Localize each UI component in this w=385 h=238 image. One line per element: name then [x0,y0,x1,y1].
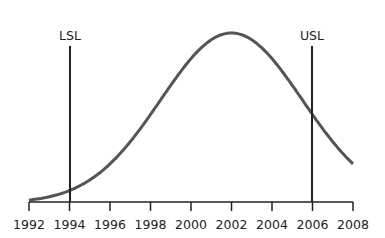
x-tick-label: 1992 [13,217,45,232]
x-tick-label: 1998 [135,217,167,232]
process-capability-chart: 199219941996199820002002200420062008 LSL… [0,0,385,238]
normal-distribution-curve [29,33,353,200]
x-tick-label: 2008 [337,217,369,232]
x-tick-label: 2000 [175,217,207,232]
x-tick-label: 2006 [297,217,329,232]
x-tick-label: 2004 [256,217,288,232]
x-axis-ticks [29,202,353,211]
x-tick-label: 1996 [94,217,126,232]
x-axis-tick-labels: 199219941996199820002002200420062008 [13,217,369,232]
usl-label: USL [300,28,324,43]
x-tick-label: 2002 [216,217,248,232]
lsl-label: LSL [59,28,81,43]
x-tick-label: 1994 [54,217,86,232]
